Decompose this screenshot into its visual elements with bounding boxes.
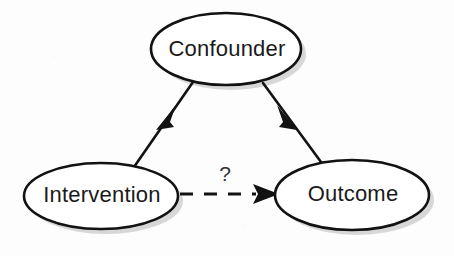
arrowhead-icon bbox=[156, 105, 176, 130]
diagram-canvas: ? Confounder Intervention Outcome bbox=[0, 0, 454, 256]
confounder-label: Confounder bbox=[169, 36, 286, 61]
causal-diagram: ? Confounder Intervention Outcome bbox=[0, 0, 454, 256]
node-outcome[interactable]: Outcome bbox=[275, 160, 429, 230]
edge-intervention-to-outcome[interactable]: ? bbox=[180, 162, 279, 204]
node-intervention[interactable]: Intervention bbox=[24, 163, 178, 229]
arrowhead-icon bbox=[277, 105, 297, 130]
edge-confounder-to-outcome[interactable] bbox=[263, 83, 321, 162]
edge-label-question-mark: ? bbox=[219, 162, 231, 185]
node-confounder[interactable]: Confounder bbox=[151, 13, 301, 85]
outcome-label: Outcome bbox=[308, 181, 399, 206]
intervention-label: Intervention bbox=[43, 182, 160, 207]
edge-confounder-to-intervention[interactable] bbox=[134, 82, 193, 167]
edge-line bbox=[263, 83, 321, 162]
